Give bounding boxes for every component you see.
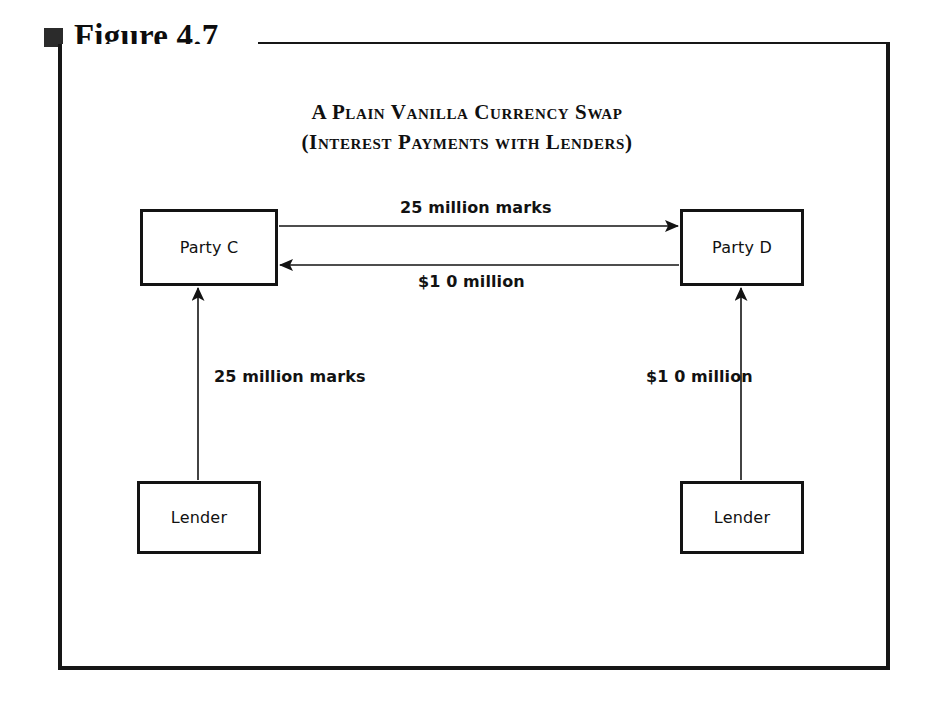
node-party-c-label: Party C (180, 238, 239, 257)
edge-label-party-d-to-party-c: $1 0 million (418, 272, 525, 291)
diagram-title-line-1: A Plain Vanilla Currency Swap (311, 100, 622, 124)
node-lender-left: Lender (137, 481, 261, 554)
node-party-c: Party C (140, 209, 278, 286)
node-party-d: Party D (680, 209, 804, 286)
node-party-d-label: Party D (712, 238, 772, 257)
node-lender-left-label: Lender (171, 508, 227, 527)
edge-label-lender-left-to-party-c: 25 million marks (214, 367, 366, 386)
edge-label-party-c-to-party-d: 25 million marks (400, 198, 552, 217)
node-lender-right-label: Lender (714, 508, 770, 527)
diagram-title: A Plain Vanilla Currency Swap (Interest … (0, 98, 934, 158)
node-lender-right: Lender (680, 481, 804, 554)
diagram-title-line-2: (Interest Payments with Lenders) (0, 128, 934, 158)
edge-label-lender-right-to-party-d: $1 0 million (646, 367, 753, 386)
figure-page: Figure 4.7 A Plain Vanilla Currency Swap… (0, 0, 934, 701)
